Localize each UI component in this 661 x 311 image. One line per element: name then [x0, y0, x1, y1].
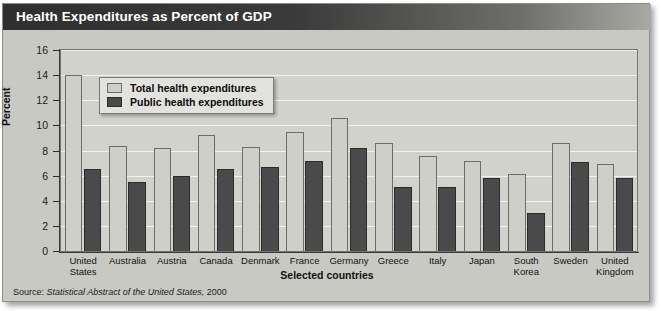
bar-total — [286, 132, 304, 251]
title-bar: Health Expenditures as Percent of GDP — [3, 4, 651, 30]
legend-swatch-public-icon — [107, 97, 122, 107]
x-axis-line — [59, 252, 639, 253]
bar-public — [394, 187, 412, 251]
y-tick-label: 0 — [26, 245, 48, 257]
bar-total — [109, 146, 127, 252]
y-tick-label: 6 — [26, 170, 48, 182]
legend-label-total: Total health expenditures — [130, 82, 256, 94]
bar-public — [483, 178, 501, 251]
source-year: 2000 — [207, 287, 227, 297]
y-tick-label: 8 — [26, 145, 48, 157]
x-tick-label: Australia — [105, 255, 149, 266]
x-tick-label: Greece — [371, 255, 415, 266]
bar-public — [350, 148, 368, 251]
y-tick-label: 14 — [26, 69, 48, 81]
x-tick-label: Italy — [416, 255, 460, 266]
bar-public — [305, 161, 323, 251]
bar-total — [65, 75, 83, 251]
bar-public — [84, 169, 102, 251]
bar-public — [217, 169, 235, 251]
bar-public — [261, 167, 279, 251]
legend-item-public: Public health expenditures — [107, 95, 264, 109]
x-axis-title: Selected countries — [3, 269, 651, 281]
bar-public — [527, 213, 545, 251]
y-tick-label: 16 — [26, 44, 48, 56]
page-title: Health Expenditures as Percent of GDP — [16, 9, 272, 24]
bar-public — [571, 162, 589, 251]
bar-total — [154, 148, 172, 251]
chart-figure: Health Expenditures as Percent of GDP Pe… — [0, 0, 661, 311]
y-tick-label: 12 — [26, 94, 48, 106]
y-tick-label: 10 — [26, 119, 48, 131]
source-note: Source: Statistical Abstract of the Unit… — [13, 287, 227, 297]
legend-swatch-total-icon — [107, 83, 122, 93]
x-tick-label: Canada — [194, 255, 238, 266]
x-tick-label: Germany — [327, 255, 371, 266]
y-axis-title: Percent — [0, 87, 12, 126]
bar-total — [464, 161, 482, 251]
bar-total — [242, 147, 260, 251]
bar-total — [375, 143, 393, 251]
source-title: Statistical Abstract of the United State… — [47, 287, 205, 297]
source-label: Source: — [13, 287, 44, 297]
x-tick-label: Japan — [460, 255, 504, 266]
y-tick-label: 2 — [26, 220, 48, 232]
bar-total — [508, 174, 526, 251]
bar-public — [173, 176, 191, 251]
bar-total — [198, 135, 216, 251]
x-tick-label: Sweden — [548, 255, 592, 266]
legend-label-public: Public health expenditures — [130, 96, 264, 108]
legend-item-total: Total health expenditures — [107, 81, 264, 95]
bar-total — [419, 156, 437, 252]
bar-total — [597, 164, 615, 251]
y-tick-label: 4 — [26, 195, 48, 207]
x-tick-label: Denmark — [238, 255, 282, 266]
bar-public — [438, 187, 456, 251]
bar-public — [616, 178, 634, 251]
chart-card: Health Expenditures as Percent of GDP Pe… — [2, 3, 650, 302]
bar-total — [331, 118, 349, 251]
x-tick-label: Austria — [150, 255, 194, 266]
bar-total — [552, 143, 570, 251]
bar-public — [128, 182, 146, 251]
chart-legend: Total health expenditures Public health … — [99, 77, 274, 114]
x-tick-label: France — [283, 255, 327, 266]
